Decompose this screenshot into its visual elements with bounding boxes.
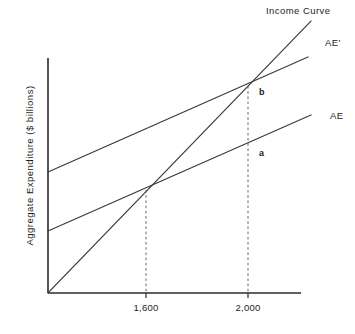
income-curve-line: [48, 21, 311, 293]
aggregate-expenditure-chart: Aggregate Expenditure ($ billions) Incom…: [0, 0, 355, 334]
point-b-label: b: [259, 88, 265, 97]
income-curve-label: Income Curve: [266, 6, 331, 16]
x-tick-label-1600: 1,600: [122, 303, 170, 313]
ae-label: AE: [330, 111, 344, 121]
ae-prime-label: AE': [325, 38, 341, 48]
x-tick-label-2000: 2,000: [224, 303, 272, 313]
y-axis-title: Aggregate Expenditure ($ billions): [24, 61, 35, 271]
ae-line: [48, 115, 311, 231]
ae-prime-line: [48, 57, 308, 172]
chart-canvas: [0, 0, 355, 334]
point-a-label: a: [259, 149, 264, 158]
